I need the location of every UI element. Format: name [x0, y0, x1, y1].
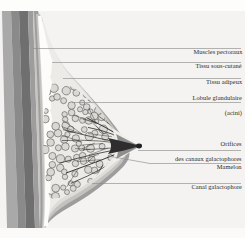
- acinus: [65, 132, 70, 137]
- acinus: [62, 143, 70, 151]
- top-margin: [0, 0, 245, 11]
- acinus: [65, 190, 70, 195]
- acinus: [62, 87, 70, 95]
- acinus: [81, 127, 87, 133]
- label-canal-galactophore: Canal galactophore: [192, 176, 242, 191]
- acinus: [54, 129, 62, 137]
- acinus: [62, 112, 67, 117]
- bottom-margin: [0, 228, 245, 238]
- acinus: [70, 185, 76, 191]
- acinus: [49, 152, 56, 159]
- illustration-body: [0, 0, 245, 238]
- acinus: [61, 185, 66, 190]
- acinus: [83, 110, 88, 115]
- acinus: [88, 156, 95, 163]
- acinus: [52, 122, 60, 130]
- breast-anatomy-figure: Muscles pectoraux Tissu sous-cutané Tiss…: [0, 0, 245, 238]
- acinus: [61, 98, 67, 104]
- label-orifices-line1: Orifices: [221, 140, 242, 147]
- acinus: [52, 184, 60, 192]
- acinus: [62, 174, 67, 179]
- acinus: [62, 117, 68, 123]
- label-canal-galactophore-line1: Canal galactophore: [192, 183, 242, 190]
- acinus: [47, 168, 55, 176]
- acinus: [55, 145, 61, 151]
- label-lobule-glandulaire-line1: Lobule glandulaire: [193, 94, 242, 101]
- acinus: [68, 109, 75, 116]
- acinus: [80, 118, 86, 124]
- nipple-tip: [136, 144, 142, 149]
- label-tissu-adipeux: Tissu adipeux: [206, 71, 242, 86]
- anatomy-illustration: [0, 0, 245, 238]
- label-tissu-sous-cutane: Tissu sous-cutané: [196, 55, 242, 70]
- label-muscles-pectoraux: Muscles pectoraux: [193, 41, 242, 56]
- acinus: [49, 161, 56, 168]
- label-mamelon-line1: Mamelon: [217, 163, 242, 170]
- acinus: [47, 131, 54, 138]
- acinus: [77, 107, 82, 112]
- acinus: [68, 102, 75, 109]
- acinus: [72, 160, 78, 166]
- label-tissu-adipeux-line1: Tissu adipeux: [206, 78, 242, 85]
- acinus: [54, 94, 61, 101]
- label-tissu-sous-cutane-line1: Tissu sous-cutané: [196, 62, 242, 69]
- label-mamelon: Mamelon: [217, 156, 242, 171]
- label-lobule-glandulaire-line2: (acini): [225, 109, 242, 116]
- acinus: [91, 112, 99, 120]
- acinus: [72, 115, 79, 122]
- label-lobule-glandulaire: Lobule glandulaire (acini): [193, 87, 242, 117]
- acinus: [85, 166, 92, 173]
- acinus: [47, 139, 55, 147]
- acinus: [87, 144, 95, 152]
- acinus: [62, 169, 68, 175]
